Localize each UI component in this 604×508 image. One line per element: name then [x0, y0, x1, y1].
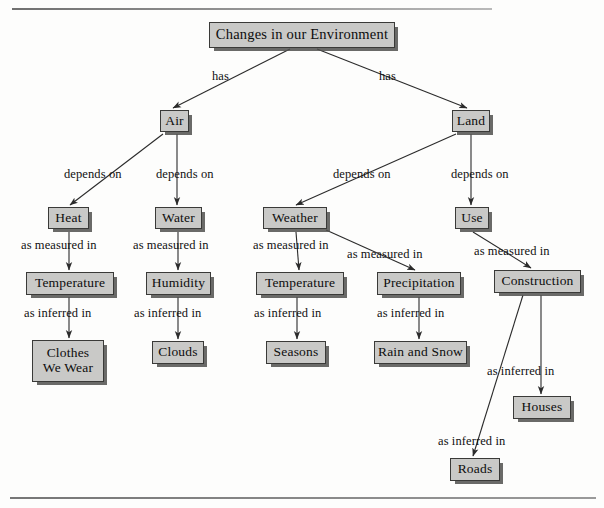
node-land[interactable]: Land — [452, 110, 490, 132]
node-air[interactable]: Air — [160, 110, 189, 132]
edge-label-air-to-heat: depends on — [64, 167, 122, 182]
edge-label-temperature2-to-seasons: as inferred in — [254, 306, 321, 321]
node-water[interactable]: Water — [155, 207, 202, 229]
node-use[interactable]: Use — [455, 207, 489, 229]
edge-label-heat-to-temperature1: as measured in — [21, 238, 97, 253]
node-heat[interactable]: Heat — [48, 207, 89, 229]
edge-label-construction-to-roads: as inferred in — [438, 434, 505, 449]
edge-label-weather-to-precipitation: as measured in — [347, 247, 423, 262]
node-clothes[interactable]: Clothes We Wear — [32, 340, 104, 382]
edge-label-air-to-water: depends on — [156, 167, 214, 182]
node-temperature1[interactable]: Temperature — [26, 272, 114, 295]
edge-label-water-to-humidity: as measured in — [133, 238, 209, 253]
node-houses[interactable]: Houses — [513, 396, 571, 419]
edge-label-construction-to-houses: as inferred in — [487, 364, 554, 379]
node-precipitation[interactable]: Precipitation — [377, 272, 461, 295]
edge-label-root-to-land: has — [379, 69, 396, 84]
node-humidity[interactable]: Humidity — [146, 272, 211, 295]
edge-label-root-to-air: has — [212, 69, 229, 84]
node-construction[interactable]: Construction — [494, 270, 581, 293]
edge-label-land-to-weather: depends on — [333, 167, 391, 182]
edge-label-use-to-construction: as measured in — [474, 244, 550, 259]
edge-label-precipitation-to-rainsnow: as inferred in — [377, 306, 444, 321]
node-weather[interactable]: Weather — [263, 207, 327, 229]
edge-label-weather-to-temperature2: as measured in — [253, 238, 329, 253]
node-root[interactable]: Changes in our Environment — [209, 22, 395, 48]
concept-map-page: Changes in our EnvironmentAirLandHeatWat… — [0, 0, 604, 508]
edge-label-temperature1-to-clothes: as inferred in — [24, 306, 91, 321]
node-seasons[interactable]: Seasons — [266, 341, 326, 364]
node-temperature2[interactable]: Temperature — [256, 272, 344, 295]
node-roads[interactable]: Roads — [450, 458, 500, 481]
node-rainsnow[interactable]: Rain and Snow — [374, 341, 467, 364]
node-clouds[interactable]: Clouds — [152, 341, 204, 364]
edge-label-land-to-use: depends on — [451, 167, 509, 182]
edge-label-humidity-to-clouds: as inferred in — [134, 306, 201, 321]
edge-root-to-air — [173, 49, 290, 108]
